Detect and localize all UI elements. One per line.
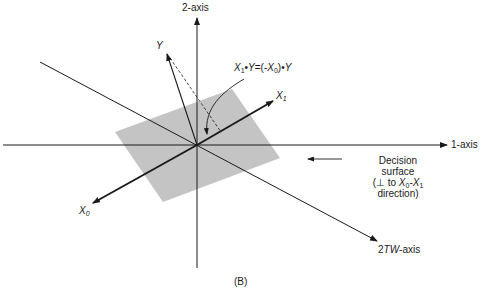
vector-y-label: Y bbox=[156, 40, 164, 51]
svg-text:Decision: Decision bbox=[379, 155, 417, 166]
axis-2tw-label: 2TW-axis bbox=[378, 244, 420, 255]
axis-2tw bbox=[40, 62, 377, 241]
vector-x0-label: X0 bbox=[78, 205, 90, 217]
figure-caption: (B) bbox=[234, 276, 247, 287]
decision-surface-label: Decision surface (⊥ to X0-X1 direction) bbox=[373, 155, 424, 199]
svg-text:direction): direction) bbox=[377, 188, 418, 199]
axis-2-label: 2-axis bbox=[182, 2, 209, 13]
svg-text:surface: surface bbox=[382, 166, 415, 177]
axis-1-label: 1-axis bbox=[451, 139, 478, 150]
vector-x1-label: X1 bbox=[275, 90, 287, 102]
decision-surface-diagram: 2-axis 1-axis 2TW-axis Y X1 X0 X1•Y=(-X0… bbox=[0, 0, 487, 288]
dot-product-equation: X1•Y=(-X0)•Y bbox=[233, 62, 293, 74]
